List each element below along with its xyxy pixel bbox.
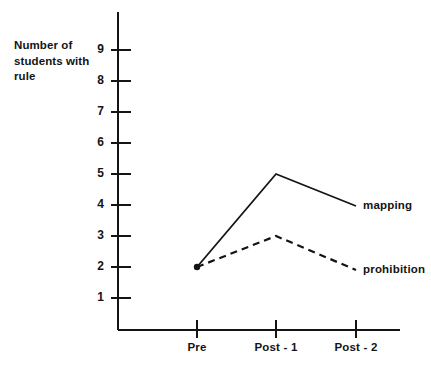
data-point-marker-pre <box>194 264 200 270</box>
series-line-mapping <box>197 174 356 267</box>
series-line-prohibition <box>197 236 356 270</box>
y-axis-ticks <box>111 50 131 298</box>
chart-plot-area <box>0 0 431 367</box>
line-chart: Number ofstudents withrule 9 8 7 6 5 4 3… <box>0 0 431 367</box>
